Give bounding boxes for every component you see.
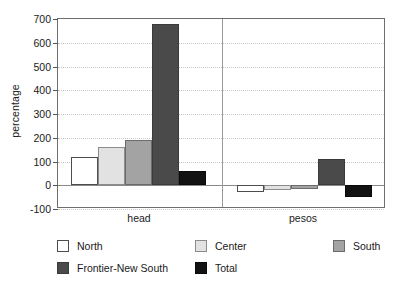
y-tick-700 (53, 19, 58, 20)
y-tick-label-100: 100 (33, 156, 51, 168)
gridline--100 (58, 209, 384, 210)
y-tick-400 (53, 90, 58, 91)
legend-label: South (353, 240, 380, 252)
legend-label: Frontier-New South (77, 262, 168, 274)
legend-label: Total (215, 262, 237, 274)
y-tick-label-400: 400 (33, 84, 51, 96)
legend-swatch-south (333, 240, 345, 252)
y-tick-label-200: 200 (33, 132, 51, 144)
legend-item-north[interactable]: North (57, 240, 103, 252)
y-tick-200 (53, 138, 58, 139)
legend-item-frontier-new-south[interactable]: Frontier-New South (57, 262, 168, 274)
legend-swatch-frontier-new-south (57, 262, 69, 274)
bar-head-center (98, 147, 125, 186)
y-tick-600 (53, 43, 58, 44)
y-tick-label-0: 0 (45, 179, 51, 191)
y-tick-label-300: 300 (33, 108, 51, 120)
bar-head-north (71, 157, 98, 186)
gridline-200 (58, 138, 384, 139)
legend-label: North (77, 240, 103, 252)
y-tick-label--100: -100 (30, 203, 51, 215)
legend-item-south[interactable]: South (333, 240, 380, 252)
gridline-0 (58, 185, 384, 186)
y-tick-300 (53, 114, 58, 115)
plot-area: 7006005004003002001000-100 (57, 18, 385, 208)
y-tick--100 (53, 209, 58, 210)
x-axis-label-head: head (57, 212, 221, 224)
gridline-600 (58, 43, 384, 44)
x-axis-label-pesos: pesos (221, 212, 385, 224)
legend-swatch-total (195, 262, 207, 274)
bar-head-frontier-new-south (152, 24, 179, 186)
gridline-400 (58, 90, 384, 91)
y-tick-0 (53, 185, 58, 186)
y-tick-label-500: 500 (33, 61, 51, 73)
bar-chart-figure: percentage 7006005004003002001000-100 he… (0, 0, 402, 291)
bar-head-total (179, 171, 206, 185)
legend-item-center[interactable]: Center (195, 240, 247, 252)
bar-head-south (125, 140, 152, 186)
legend-item-total[interactable]: Total (195, 262, 237, 274)
group-divider (222, 19, 223, 207)
gridline-500 (58, 67, 384, 68)
y-tick-label-700: 700 (33, 13, 51, 25)
y-tick-100 (53, 162, 58, 163)
legend-swatch-north (57, 240, 69, 252)
bar-pesos-south (291, 185, 318, 189)
chart-legend: NorthCenterSouthFrontier-New SouthTotal (57, 240, 387, 282)
legend-swatch-center (195, 240, 207, 252)
gridline-300 (58, 114, 384, 115)
bar-pesos-frontier-new-south (318, 159, 345, 185)
y-tick-label-600: 600 (33, 37, 51, 49)
bar-pesos-center (264, 185, 291, 190)
bar-pesos-total (345, 185, 372, 197)
y-tick-500 (53, 67, 58, 68)
bar-pesos-north (237, 185, 264, 192)
y-axis-title: percentage (9, 56, 25, 166)
legend-label: Center (215, 240, 247, 252)
